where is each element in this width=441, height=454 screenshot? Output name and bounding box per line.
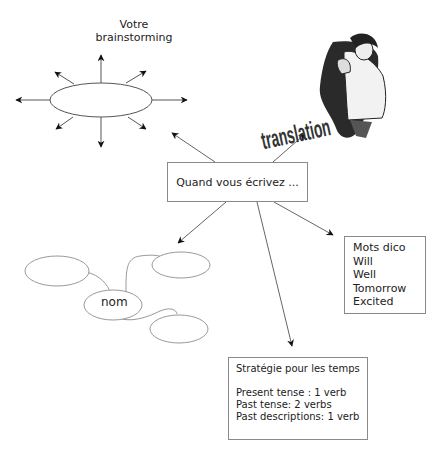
strategy-line: Past tense: 2 verbs bbox=[236, 399, 367, 411]
brainstorm-sunburst bbox=[16, 55, 187, 147]
arrow-to-vocabulary bbox=[274, 202, 333, 235]
arrow-up-right bbox=[126, 71, 146, 83]
arrow-up-left bbox=[55, 72, 74, 84]
strategy-line: Present tense : 1 verb bbox=[236, 387, 367, 399]
diagram-canvas: translation bbox=[0, 0, 441, 454]
arrow-down-right bbox=[128, 117, 146, 129]
translation-clipart: translation bbox=[259, 33, 386, 154]
brainstorm-ellipse bbox=[50, 83, 152, 117]
central-node-label: Quand vous écrivez ... bbox=[176, 176, 299, 189]
vocab-item: Tomorrow bbox=[353, 282, 425, 296]
arrow-down-left bbox=[56, 117, 73, 129]
bubble-left bbox=[25, 256, 89, 286]
vocab-item: Well bbox=[353, 268, 425, 282]
vocab-item: Will bbox=[353, 255, 425, 269]
strategy-box: Stratégie pour les temps Present tense :… bbox=[228, 357, 368, 440]
brainstorm-title: Votre brainstorming bbox=[84, 18, 184, 44]
arrow-to-brainstorm bbox=[172, 133, 215, 162]
translation-word: translation bbox=[259, 113, 333, 155]
strategy-heading: Stratégie pour les temps bbox=[236, 363, 367, 375]
connector-left bbox=[86, 272, 110, 292]
bubble-bottom-right bbox=[150, 315, 208, 343]
brainstorm-title-line2: brainstorming bbox=[84, 31, 184, 44]
vocab-item: Excited bbox=[353, 295, 425, 309]
arrow-to-word-web bbox=[178, 202, 226, 243]
arrow-to-strategy bbox=[257, 202, 292, 346]
bubble-top-right bbox=[152, 252, 210, 278]
word-web-center-label: nom bbox=[101, 296, 128, 309]
central-node: Quand vous écrivez ... bbox=[167, 162, 308, 202]
vocab-item: Mots dico bbox=[353, 241, 425, 255]
strategy-line: Past descriptions: 1 verb bbox=[236, 411, 367, 423]
brainstorm-title-line1: Votre bbox=[84, 18, 184, 31]
vocabulary-box: Mots dico Will Well Tomorrow Excited bbox=[344, 236, 426, 314]
